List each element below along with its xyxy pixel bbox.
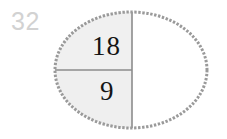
worksheet-figure-page: 32 18 9	[0, 0, 227, 139]
upper-left-region-label: 18	[92, 33, 121, 60]
ellipse-figure-svg	[0, 0, 227, 139]
ellipse-figure: 18 9	[0, 0, 227, 139]
lower-left-region-label: 9	[100, 78, 114, 105]
